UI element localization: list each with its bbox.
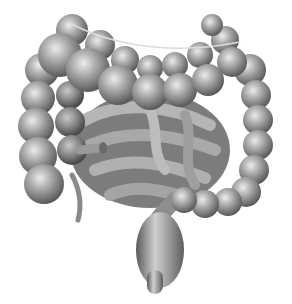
rectum <box>136 200 184 294</box>
intestine-illustration <box>0 0 292 304</box>
